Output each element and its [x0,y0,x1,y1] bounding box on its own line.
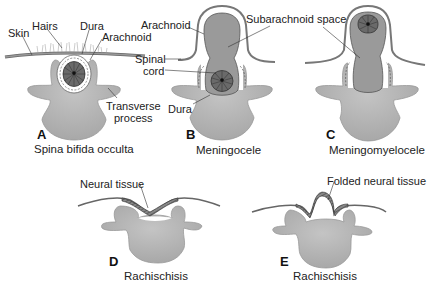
label-hairs: Hairs [32,20,58,32]
caption-a: Spina bifida occulta [34,143,134,155]
label-folded-neural-tissue: Folded neural tissue [327,175,426,187]
panel-letter-a: A [37,127,46,142]
caption-d: Rachischisis [124,270,188,282]
panel-letter-e: E [280,254,289,269]
panel-d-illustration [78,184,220,263]
label-cord: cord [143,65,164,77]
label-transverse: Transverse [106,100,161,112]
label-process: process [114,112,153,124]
folded-neural-tissue-e [296,192,348,218]
label-dura-a: Dura [80,20,104,32]
panel-letter-c: C [326,127,335,142]
label-neural-tissue: Neural tissue [80,178,144,190]
label-arachnoid-a: Arachnoid [102,31,152,43]
label-spinal: Spinal [135,53,166,65]
label-subarachnoid-space: Subarachnoid space [246,13,346,25]
label-dura-b: Dura [168,103,192,115]
panel-c-illustration [305,6,425,141]
caption-e: Rachischisis [293,270,357,282]
panel-letter-b: B [186,127,195,142]
panel-letter-d: D [109,254,118,269]
caption-b: Meningocele [196,144,261,156]
label-skin: Skin [8,27,29,39]
caption-c: Meningomyelocele [329,144,425,156]
label-arachnoid-b: Arachnoid [141,19,191,31]
panel-e-illustration [252,182,386,268]
